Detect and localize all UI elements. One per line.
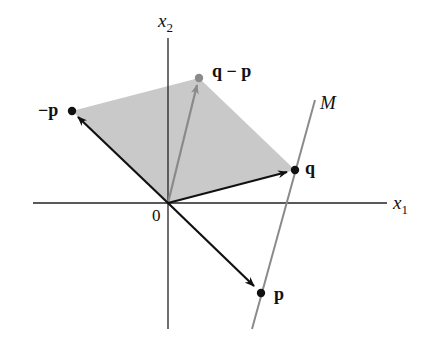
point-p <box>257 289 265 297</box>
label-line-m: M <box>320 92 336 114</box>
vector-diagram: x2 x1 0 −p q − p q p M <box>0 0 429 348</box>
x2-label-sub: 2 <box>166 20 173 35</box>
point-q <box>291 166 299 174</box>
diagram-canvas <box>0 0 429 348</box>
x1-axis-label: x1 <box>393 192 408 218</box>
label-q-minus-p: q − p <box>212 61 251 82</box>
vector-p <box>168 203 254 286</box>
x1-label-sub: 1 <box>401 202 408 217</box>
label-p: p <box>274 284 284 305</box>
point-neg-p <box>68 107 76 115</box>
point-q-minus-p <box>195 74 203 82</box>
label-neg-p: −p <box>38 100 58 121</box>
x2-axis-label: x2 <box>158 10 173 36</box>
origin-label: 0 <box>152 206 161 226</box>
label-q: q <box>305 158 315 179</box>
